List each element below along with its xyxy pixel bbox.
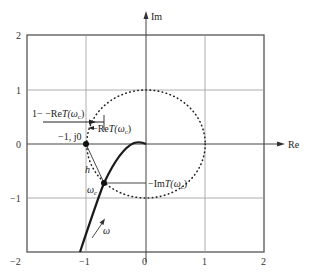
x-tick-neg2: −2 xyxy=(10,256,21,267)
y-tick-0: 0 xyxy=(16,139,21,150)
im-T-label: −ImT(ωc) xyxy=(148,178,187,191)
x-tick-2: 2 xyxy=(261,256,266,267)
omega-label: ω xyxy=(103,225,110,236)
x-tick-neg1: −1 xyxy=(79,256,90,267)
re-T-label: −ReT(ωc) xyxy=(92,123,131,136)
omega-c-label: ωc xyxy=(87,184,98,197)
im-axis-arrow-icon xyxy=(144,11,149,19)
crossover-point-marker xyxy=(101,180,107,186)
y-tick-neg1: −1 xyxy=(10,193,21,204)
re-axis-arrow-icon xyxy=(277,142,285,147)
critical-point-label: −1, j0 xyxy=(58,131,81,142)
x-tick-1: 1 xyxy=(202,256,207,267)
y-tick-2: 2 xyxy=(16,30,21,41)
y-tick-1: 1 xyxy=(16,85,21,96)
omega-direction-line xyxy=(92,222,103,238)
re-axis-label: Re xyxy=(288,139,300,150)
h-label: h xyxy=(85,164,90,175)
x-tick-0: 0 xyxy=(142,256,147,267)
distance-label: 1− −ReT(ωc) xyxy=(32,108,84,121)
critical-point-marker xyxy=(83,141,89,147)
im-axis-label: Im xyxy=(151,11,162,22)
nyquist-diagram: Im Re 2 1 0 −1 −2 −1 0 1 2 1− −ReT(ωc) −… xyxy=(0,0,309,277)
